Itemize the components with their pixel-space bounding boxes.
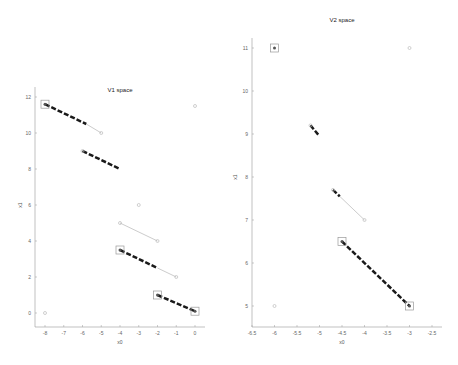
y-tick-label: 6 xyxy=(245,260,248,266)
figure: -8-7-6-5-4-3-2-10024681012V1 spacex0x1-6… xyxy=(0,0,458,365)
x-tick-label: -3 xyxy=(137,330,142,336)
circle-marker xyxy=(273,305,276,308)
chart-title: V1 space xyxy=(107,87,133,93)
x-tick-label: -2.5 xyxy=(428,330,437,336)
circle-marker xyxy=(137,204,140,207)
gray-segment xyxy=(86,124,101,133)
x-tick-label: -8 xyxy=(43,330,48,336)
x-tick-label: -4 xyxy=(118,330,123,336)
box-center-marker xyxy=(194,310,197,313)
y-tick-label: 5 xyxy=(245,303,248,309)
dashed-segment xyxy=(158,295,196,311)
box-center-marker xyxy=(341,240,344,243)
dashed-segment xyxy=(83,151,121,169)
dashed-segment xyxy=(45,104,86,124)
y-axis-label: x1 xyxy=(232,174,238,180)
x-tick-label: -4.5 xyxy=(338,330,347,336)
x-tick-label: -7 xyxy=(62,330,67,336)
x-tick-label: -6 xyxy=(272,330,277,336)
gray-segment xyxy=(120,223,158,241)
y-tick-label: 10 xyxy=(25,130,31,136)
chart-title: V2 space xyxy=(329,17,355,23)
box-center-marker xyxy=(44,103,47,106)
x-tick-label: -2 xyxy=(155,330,160,336)
box-center-marker xyxy=(408,305,411,308)
y-tick-label: 0 xyxy=(28,310,31,316)
dashed-segment xyxy=(120,250,158,268)
gray-segment xyxy=(340,196,365,220)
x-tick-label: -6.5 xyxy=(248,330,257,336)
y-axis-label: x1 xyxy=(17,202,23,208)
x-tick-label: -5 xyxy=(99,330,104,336)
y-tick-label: 6 xyxy=(28,202,31,208)
circle-marker xyxy=(44,312,47,315)
y-tick-label: 12 xyxy=(25,94,31,100)
dashed-segment xyxy=(342,242,410,307)
y-tick-label: 11 xyxy=(243,45,248,51)
x-tick-label: -5.5 xyxy=(293,330,302,336)
box-center-marker xyxy=(273,47,276,50)
x-tick-label: -1 xyxy=(174,330,179,336)
box-center-marker xyxy=(156,294,159,297)
x-axis-label: x0 xyxy=(117,339,123,345)
gray-segment xyxy=(158,268,177,277)
y-tick-label: 10 xyxy=(242,88,248,94)
circle-marker xyxy=(408,47,411,50)
y-tick-label: 8 xyxy=(245,174,248,180)
x-tick-label: 0 xyxy=(194,330,197,336)
x-tick-label: -4 xyxy=(362,330,367,336)
dashed-segment xyxy=(311,125,320,136)
y-tick-label: 8 xyxy=(28,166,31,172)
y-tick-label: 9 xyxy=(245,131,248,137)
x-tick-label: -5 xyxy=(317,330,322,336)
x-axis-label: x0 xyxy=(339,339,345,345)
circle-marker xyxy=(194,105,197,108)
y-tick-label: 2 xyxy=(28,274,31,280)
x-tick-label: -3.5 xyxy=(383,330,392,336)
x-tick-label: -6 xyxy=(80,330,85,336)
x-tick-label: -3 xyxy=(407,330,412,336)
box-center-marker xyxy=(119,249,122,252)
y-tick-label: 4 xyxy=(28,238,31,244)
y-tick-label: 7 xyxy=(245,217,248,223)
